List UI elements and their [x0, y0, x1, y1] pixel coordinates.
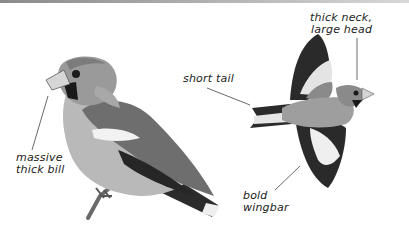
annotation-massive-thick-bill: massive thick bill	[16, 152, 64, 176]
leader-tail	[207, 88, 250, 105]
flying-bird	[250, 34, 374, 188]
annotation-short-tail: short tail	[183, 73, 234, 85]
annotation-line: wingbar	[243, 202, 289, 214]
annotation-line: short tail	[183, 73, 234, 85]
annotation-line: large head	[310, 24, 372, 36]
leader-bill	[32, 96, 48, 150]
annotation-thick-neck-large-head: thick neck, large head	[310, 12, 372, 36]
leader-wing	[275, 166, 300, 190]
annotation-line: thick bill	[16, 164, 64, 176]
annotation-bold-wingbar: bold wingbar	[243, 190, 289, 214]
